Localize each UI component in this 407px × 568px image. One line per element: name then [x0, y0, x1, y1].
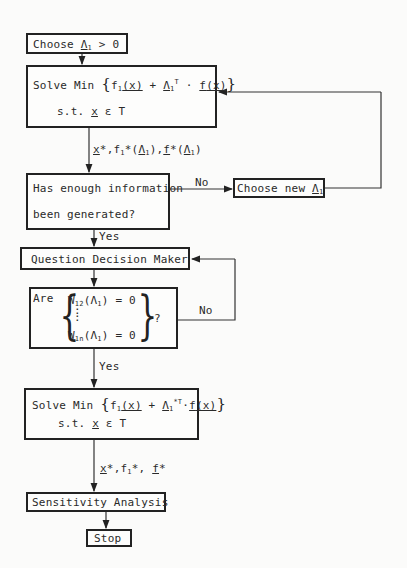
lambda-symbol: Λ1 — [81, 38, 92, 51]
node-choose-new-lambda: Choose new Λ1 — [233, 178, 325, 198]
node-text: been generated? — [33, 208, 135, 221]
constraint-expression: s.t. x ε T — [57, 105, 125, 118]
ellipsis: : — [74, 314, 81, 322]
node-text: Has enough information — [33, 182, 183, 195]
constraint-expression: s.t. x ε T — [58, 417, 126, 430]
question-mark: ? — [154, 312, 161, 325]
edge-label-yes: Yes — [99, 360, 119, 373]
edge-label-solution-outputs: x*,f1*(Λ1),f*(Λ1) — [93, 143, 202, 157]
edge-label-no: No — [195, 176, 209, 189]
node-text: Question Decision Maker — [31, 253, 188, 266]
node-solve-min-final: Solve Min {f1(x) + Λ1*T·f(x)} s.t. x ε T — [24, 388, 199, 440]
node-text: Choose new — [237, 182, 312, 195]
objective-expression: Solve Min {f1(x) + Λ1*T·f(x)} — [32, 395, 226, 413]
node-tradeoff-zero-decision: Are { W12(Λ1) = 0 : : W1n(Λ1) = 0 } ? — [29, 287, 178, 349]
edge-label-yes: Yes — [99, 230, 119, 243]
node-text: Are — [33, 292, 53, 305]
node-text: > 0 — [92, 38, 119, 51]
node-enough-information-decision: Has enough information been generated? — [26, 173, 170, 230]
node-sensitivity-analysis: Sensitivity Analysis — [26, 492, 166, 512]
node-solve-min-weighted: Solve Min {f1(x) + Λ1T · f(x)} s.t. x ε … — [26, 65, 217, 128]
lambda-symbol: Λ1 — [312, 182, 323, 195]
node-text: Sensitivity Analysis — [32, 496, 168, 509]
node-stop: Stop — [86, 529, 132, 547]
objective-expression: Solve Min {f1(x) + Λ1T · f(x)} — [33, 75, 236, 93]
node-text: Choose — [33, 38, 81, 51]
edge-label-final-outputs: x*,f1*, f* — [100, 462, 166, 476]
node-question-decision-maker: Question Decision Maker — [20, 247, 190, 270]
w1n-equation: W1n(Λ1) = 0 — [68, 329, 136, 343]
node-text: Stop — [94, 532, 121, 545]
edge-label-no: No — [199, 304, 213, 317]
node-choose-lambda: Choose Λ1 > 0 — [26, 33, 128, 54]
